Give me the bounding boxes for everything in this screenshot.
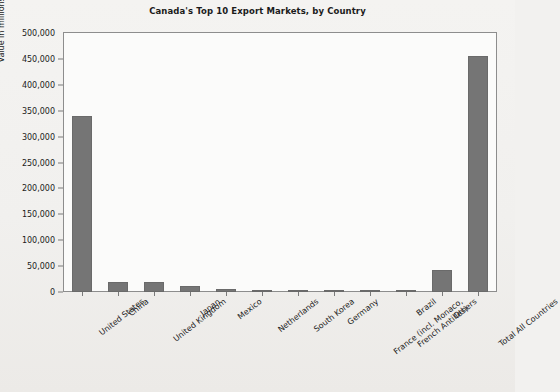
bar-series [64, 33, 496, 292]
y-tick-label: 450,000 [22, 54, 55, 63]
bar-slot [280, 33, 316, 292]
y-tick-label: 200,000 [22, 184, 55, 193]
bar-slot [208, 33, 244, 292]
bar-total-all-countries[interactable] [468, 56, 488, 292]
x-tick-mark [478, 292, 479, 296]
x-tick-mark [226, 292, 227, 296]
bar-slot [136, 33, 172, 292]
bar-slot [460, 33, 496, 292]
x-tick-mark [298, 292, 299, 296]
x-tick-label: Mexico [236, 297, 264, 321]
bar-slot [316, 33, 352, 292]
x-tick-mark [370, 292, 371, 296]
y-axis-ticks: 500,000450,000400,000350,000300,000250,0… [0, 32, 63, 292]
x-tick-mark [334, 292, 335, 296]
bar-united-states[interactable] [72, 116, 92, 292]
x-tick-label: Total All Countries [497, 297, 559, 348]
x-axis-labels: United StatesChinaUnited KingdomJapanMex… [64, 297, 496, 392]
bar-china[interactable] [108, 282, 128, 292]
bar-united-kingdom[interactable] [144, 282, 164, 292]
bar-slot [352, 33, 388, 292]
x-tick-mark [118, 292, 119, 296]
y-tick-label: 0 [50, 288, 55, 297]
y-tick-label: 350,000 [22, 106, 55, 115]
y-tick-label: 400,000 [22, 80, 55, 89]
bar-slot [388, 33, 424, 292]
x-tick-mark [442, 292, 443, 296]
y-tick-label: 250,000 [22, 158, 55, 167]
y-tick-label: 50,000 [27, 262, 55, 271]
x-tick-mark [262, 292, 263, 296]
bar-others[interactable] [432, 270, 452, 292]
x-tick-mark [82, 292, 83, 296]
chart-title: Canada's Top 10 Export Markets, by Count… [0, 6, 515, 16]
x-tick-label-line: Total All Countries [497, 297, 559, 348]
bar-slot [64, 33, 100, 292]
x-tick-mark [154, 292, 155, 296]
bar-slot [172, 33, 208, 292]
y-tick-label: 500,000 [22, 29, 55, 38]
x-tick-label-line: Mexico [236, 297, 264, 321]
x-tick-mark [406, 292, 407, 296]
bar-slot [424, 33, 460, 292]
bar-slot [100, 33, 136, 292]
y-tick-label: 100,000 [22, 236, 55, 245]
x-tick-label: China [127, 297, 151, 318]
y-tick-label: 300,000 [22, 132, 55, 141]
bar-slot [244, 33, 280, 292]
x-tick-label-line: China [127, 297, 151, 318]
y-tick-label: 150,000 [22, 210, 55, 219]
x-tick-mark [190, 292, 191, 296]
